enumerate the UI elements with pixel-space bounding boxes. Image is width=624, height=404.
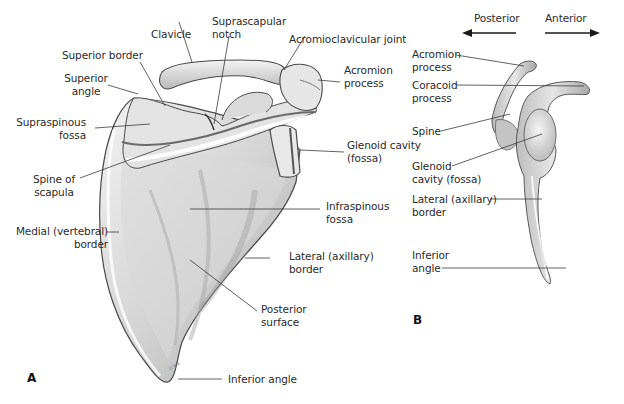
label-b-coracoid-process-line2: process xyxy=(412,92,452,105)
label-infraspinous-fossa-line2: fossa xyxy=(326,213,353,226)
label-spine-of-scapula-line2: scapula xyxy=(30,186,78,199)
label-posterior-surface-line2: surface xyxy=(261,316,299,329)
arrow-right-icon xyxy=(590,29,600,37)
label-superior-border: Superior border xyxy=(62,49,143,62)
label-b-acromion-process-line2: process xyxy=(412,61,452,74)
label-b-inferior-angle-line1: Inferior xyxy=(412,249,449,262)
direction-arrows xyxy=(462,29,600,37)
label-medial-border-line2: border xyxy=(0,238,108,251)
label-b-spine: Spine xyxy=(412,125,441,138)
label-clavicle: Clavicle xyxy=(151,28,191,41)
label-posterior-surface-line1: Posterior xyxy=(261,303,307,316)
label-medial-border-line1: Medial (vertebral) xyxy=(0,225,108,238)
label-supraspinous-fossa-line1: Supraspinous xyxy=(0,116,86,129)
label-supraspinous-fossa-line2: fossa xyxy=(0,129,86,142)
label-direction-anterior: Anterior xyxy=(545,12,587,25)
label-suprascapular-notch-line2: notch xyxy=(212,28,241,41)
label-direction-posterior: Posterior xyxy=(474,12,520,25)
label-lateral-border-line2: border xyxy=(289,263,323,276)
label-b-glenoid-cavity-line1: Glenoid xyxy=(412,160,451,173)
label-spine-of-scapula-line1: Spine of xyxy=(30,173,78,186)
label-glenoid-cavity-line2: (fossa) xyxy=(347,152,382,165)
label-b-acromion-process-line1: Acromion xyxy=(412,48,461,61)
arrow-left-icon xyxy=(462,29,472,37)
label-inferior-angle: Inferior angle xyxy=(228,373,297,386)
label-suprascapular-notch-line1: Suprascapular xyxy=(212,15,286,28)
label-superior-angle-line2: angle xyxy=(64,85,108,98)
label-b-glenoid-cavity-line2: cavity (fossa) xyxy=(412,173,481,186)
label-b-inferior-angle-line2: angle xyxy=(412,262,441,275)
label-b-lateral-border-line2: border xyxy=(412,206,446,219)
label-acromion-process-line2: process xyxy=(344,77,384,90)
panel-letter-a: A xyxy=(27,371,36,385)
label-glenoid-cavity-line1: Glenoid cavity xyxy=(347,139,421,152)
label-acromion-process-line1: Acromion xyxy=(344,64,393,77)
label-acromioclavicular-joint: Acromioclavicular joint xyxy=(289,33,406,46)
label-infraspinous-fossa-line1: Infraspinous xyxy=(326,200,389,213)
label-superior-angle-line1: Superior xyxy=(64,72,108,85)
scapula-anatomy-figure: G.W.K. xyxy=(0,0,624,404)
label-b-coracoid-process-line1: Coracoid xyxy=(412,79,458,92)
label-b-lateral-border-line1: Lateral (axillary) xyxy=(412,193,497,206)
label-lateral-border-line1: Lateral (axillary) xyxy=(289,250,374,263)
scapula-b-lateral xyxy=(492,61,590,284)
panel-letter-b: B xyxy=(413,313,422,327)
